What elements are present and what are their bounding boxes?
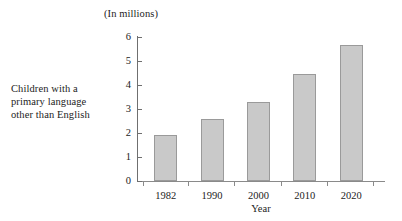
x-axis-tick (373, 181, 374, 186)
x-axis-tick (234, 181, 235, 186)
x-axis-line (137, 181, 385, 182)
y-axis-tick (137, 133, 142, 134)
chart-side-caption: Children with a primary language other t… (11, 82, 119, 122)
x-axis-title: Year (137, 203, 385, 214)
x-axis-tick (327, 181, 328, 186)
caption-line-2: primary language (11, 95, 119, 108)
caption-line-1: Children with a (11, 82, 119, 95)
bar (154, 135, 177, 181)
x-axis-tick (188, 181, 189, 186)
x-axis-tick-label: 1982 (143, 190, 189, 201)
y-axis-tick (137, 181, 142, 182)
bar (340, 45, 363, 181)
x-axis-tick-label: 2020 (328, 190, 374, 201)
caption-line-3: other than English (11, 108, 119, 121)
y-axis-tick (137, 37, 142, 38)
chart-units-title: (In millions) (104, 8, 158, 19)
bar (293, 74, 316, 181)
bar-chart-figure: Children with a primary language other t… (0, 0, 402, 221)
y-axis-tick-label: 0 (115, 176, 131, 186)
y-axis-tick-label: 1 (115, 152, 131, 162)
y-axis-tick (137, 109, 142, 110)
x-axis-tick (281, 181, 282, 186)
y-axis-tick-label: 3 (115, 104, 131, 114)
y-axis-tick-label: 2 (115, 128, 131, 138)
bar (201, 119, 224, 181)
y-axis-tick-label: 6 (115, 32, 131, 42)
x-axis-tick-label: 2000 (235, 190, 281, 201)
y-axis-tick (137, 61, 142, 62)
y-axis-tick (137, 85, 142, 86)
y-axis-tick-label: 4 (115, 80, 131, 90)
bar (247, 102, 270, 181)
x-axis-tick-label: 1990 (189, 190, 235, 201)
x-axis-tick-label: 2010 (282, 190, 328, 201)
x-axis-tick (143, 181, 144, 186)
y-axis-tick-label: 5 (115, 56, 131, 66)
y-axis-tick (137, 157, 142, 158)
